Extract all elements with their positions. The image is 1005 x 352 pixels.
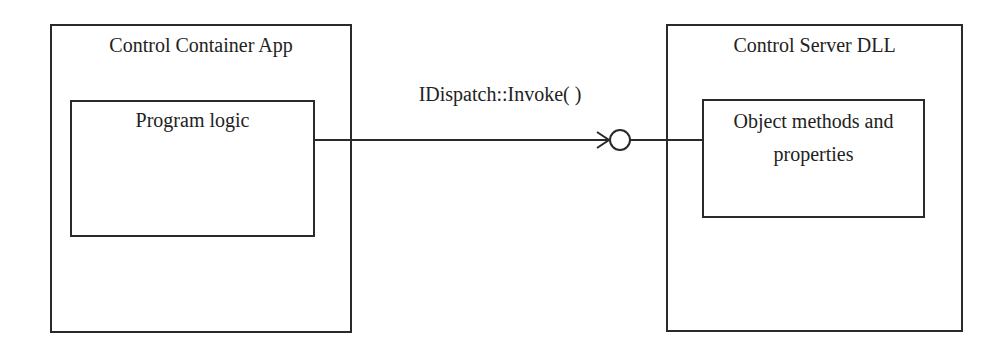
interface-lollipop-icon (610, 130, 630, 150)
connector-graphic (0, 0, 1005, 352)
